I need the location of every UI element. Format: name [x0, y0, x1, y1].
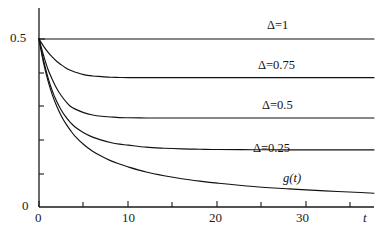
- x-tick-label-20: 20: [209, 210, 222, 226]
- y-tick-label-0: 0: [22, 198, 29, 214]
- curve-delta-075: [39, 39, 374, 78]
- curve-label-delta-1: Δ=1: [267, 18, 288, 33]
- curve-label-g-of-t: g(t): [283, 171, 301, 186]
- x-tick-label-30: 30: [296, 210, 309, 226]
- y-tick-label-0.5: 0.5: [10, 30, 26, 46]
- curve-label-delta-05: Δ=0.5: [262, 98, 293, 113]
- data-curves: [39, 39, 374, 193]
- x-axis-title: t: [363, 210, 367, 226]
- y-tick-marks: [39, 39, 45, 174]
- axes-group: [39, 8, 374, 207]
- x-tick-label-0: 0: [35, 210, 42, 226]
- curve-label-delta-025: Δ=0.25: [253, 141, 290, 156]
- curve-delta-05: [39, 39, 374, 118]
- chart-figure: 0.5 0 0 10 20 30 t Δ=1 Δ=0.75 Δ=0.5 Δ=0.…: [0, 0, 377, 239]
- x-tick-label-10: 10: [122, 210, 135, 226]
- plot-canvas: [0, 0, 377, 239]
- x-tick-marks: [39, 201, 350, 207]
- curve-label-delta-075: Δ=0.75: [258, 58, 295, 73]
- curve-g-of-t: [39, 39, 374, 193]
- curve-delta-025: [39, 39, 374, 150]
